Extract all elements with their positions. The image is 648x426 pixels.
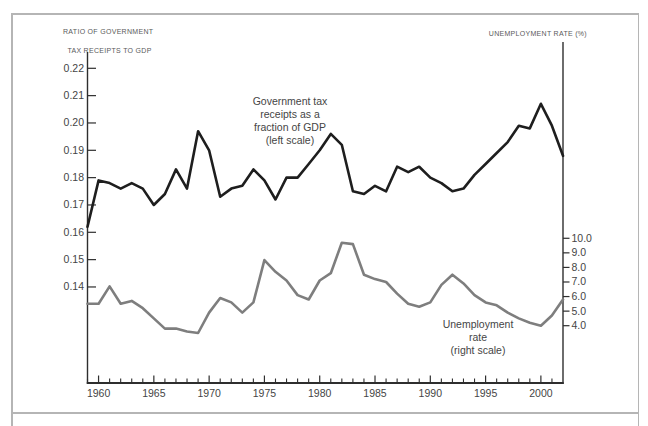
x-axis-year-label: 1975 — [253, 387, 277, 399]
tax-receipts-annotation-line: Government tax — [225, 95, 355, 108]
left-axis-tick-label: 0.18 — [64, 171, 85, 183]
right-axis-tick-label: 8.0 — [572, 261, 587, 273]
x-axis-year-label: 1965 — [142, 387, 166, 399]
x-axis-year-label: 1990 — [419, 387, 443, 399]
tax-receipts-annotation-line: receipts as a — [225, 108, 355, 121]
left-axis-tick-label: 0.20 — [64, 116, 85, 128]
right-axis-tick-label: 7.0 — [572, 275, 587, 287]
chart-svg: 0.220.210.200.190.180.170.160.150.1410.0… — [0, 0, 648, 426]
tax-receipts-annotation: Government tax receipts as a fraction of… — [225, 95, 355, 147]
left-axis-tick-label: 0.21 — [64, 89, 85, 101]
right-axis-tick-label: 10.0 — [572, 232, 593, 244]
unemployment-annotation-line: rate — [413, 331, 543, 344]
unemployment-annotation-line: Unemployment — [413, 318, 543, 331]
tax-receipts-annotation-line: (left scale) — [225, 134, 355, 147]
left-axis-tick-label: 0.22 — [64, 62, 85, 74]
x-axis-year-label: 1970 — [197, 387, 221, 399]
x-axis-year-label: 1995 — [474, 387, 498, 399]
x-axis-year-label: 1985 — [363, 387, 387, 399]
unemployment-annotation-line: (right scale) — [413, 344, 543, 357]
right-axis-tick-label: 4.0 — [572, 319, 587, 331]
x-axis-year-label: 1980 — [308, 387, 332, 399]
unemployment-annotation: Unemployment rate (right scale) — [413, 318, 543, 357]
left-axis-tick-label: 0.17 — [64, 198, 85, 210]
left-axis-tick-label: 0.19 — [64, 144, 85, 156]
left-axis-tick-label: 0.15 — [64, 253, 85, 265]
left-axis-tick-label: 0.16 — [64, 226, 85, 238]
left-axis-tick-label: 0.14 — [64, 280, 85, 292]
right-axis-tick-label: 5.0 — [572, 305, 587, 317]
right-axis-tick-label: 9.0 — [572, 246, 587, 258]
tax-receipts-annotation-line: fraction of GDP — [225, 121, 355, 134]
x-axis-year-label: 2000 — [529, 387, 553, 399]
figure-panel: RATIO OF GOVERNMENT TAX RECEIPTS TO GDP … — [0, 0, 648, 426]
right-axis-tick-label: 6.0 — [572, 290, 587, 302]
x-axis-year-label: 1960 — [87, 387, 111, 399]
